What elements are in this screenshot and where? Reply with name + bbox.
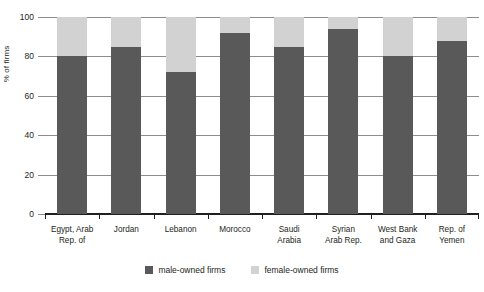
bar-group[interactable] <box>383 17 413 214</box>
bar-group[interactable] <box>57 17 87 214</box>
legend-label: male-owned firms <box>158 266 225 275</box>
x-tick-mark <box>154 214 155 219</box>
x-axis-label-line: Rep. of <box>40 235 104 246</box>
bar-group[interactable] <box>437 17 467 214</box>
bar-group[interactable] <box>220 17 250 214</box>
y-tick-mark-100 <box>38 17 45 18</box>
gridline-20 <box>45 175 479 176</box>
x-tick-mark <box>99 214 100 219</box>
bar-segment[interactable] <box>111 17 141 47</box>
bar-segment[interactable] <box>274 17 304 47</box>
bar-group[interactable] <box>111 17 141 214</box>
y-axis-ticks: 020406080100 <box>0 17 45 214</box>
chart-legend: male-owned firmsfemale-owned firms <box>0 266 484 275</box>
bar-segment[interactable] <box>437 17 467 41</box>
y-tick-mark-0 <box>38 214 45 215</box>
y-tick-label-60: 60 <box>8 92 34 101</box>
bar-group[interactable] <box>274 17 304 214</box>
y-tick-label-20: 20 <box>8 171 34 180</box>
y-tick-mark-60 <box>38 96 45 97</box>
legend-item[interactable]: male-owned firms <box>145 266 225 275</box>
bar-segment[interactable] <box>383 56 413 214</box>
y-tick-mark-40 <box>38 135 45 136</box>
bar-segment[interactable] <box>220 17 250 33</box>
x-tick-mark <box>262 214 263 219</box>
bar-segment[interactable] <box>328 17 358 29</box>
gridline-100 <box>45 17 479 18</box>
x-axis-label: Rep. ofYemen <box>420 224 484 246</box>
bar-segment[interactable] <box>220 33 250 214</box>
bar-segment[interactable] <box>383 17 413 56</box>
y-tick-mark-20 <box>38 175 45 176</box>
legend-swatch-icon <box>251 266 259 274</box>
y-tick-label-100: 100 <box>8 13 34 22</box>
y-tick-label-0: 0 <box>8 210 34 219</box>
bar-segment[interactable] <box>437 41 467 214</box>
y-tick-label-80: 80 <box>8 52 34 61</box>
legend-item[interactable]: female-owned firms <box>251 266 338 275</box>
gridline-60 <box>45 96 479 97</box>
x-tick-mark <box>45 214 46 219</box>
x-tick-mark <box>208 214 209 219</box>
bar-segment[interactable] <box>57 56 87 214</box>
legend-label: female-owned firms <box>264 266 338 275</box>
x-tick-mark <box>478 214 479 219</box>
legend-swatch-icon <box>145 266 153 274</box>
gridline-40 <box>45 135 479 136</box>
y-tick-mark-80 <box>38 56 45 57</box>
x-axis-label-line: Yemen <box>420 235 484 246</box>
bar-segment[interactable] <box>328 29 358 214</box>
stacked-bar-chart: % of firms 020406080100 Egypt, ArabRep. … <box>0 0 484 292</box>
x-tick-mark <box>425 214 426 219</box>
x-tick-mark <box>371 214 372 219</box>
gridline-80 <box>45 56 479 57</box>
bar-segment[interactable] <box>274 47 304 214</box>
bar-group[interactable] <box>166 17 196 214</box>
bar-segment[interactable] <box>166 17 196 72</box>
bar-segment[interactable] <box>57 17 87 56</box>
plot-area <box>45 17 479 214</box>
bar-group[interactable] <box>328 17 358 214</box>
bar-segment[interactable] <box>111 47 141 214</box>
x-tick-mark <box>316 214 317 219</box>
bar-segment[interactable] <box>166 72 196 214</box>
y-tick-label-40: 40 <box>8 131 34 140</box>
x-axis-label-line: Rep. of <box>420 224 484 235</box>
